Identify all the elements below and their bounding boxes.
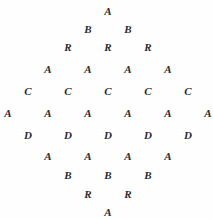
lattice-letter-a: A [102,207,114,218]
lattice-letter-r: R [122,189,134,200]
lattice-letter-d: D [102,130,114,141]
lattice-letter-c: C [182,86,194,97]
lattice-letter-a: A [102,6,114,17]
lattice-letter-a: A [82,151,94,162]
lattice-letter-a: A [42,151,54,162]
lattice-letter-a: A [82,64,94,75]
lattice-letter-b: B [62,170,74,181]
lattice-letter-r: R [62,42,74,53]
lattice-letter-b: B [102,170,114,181]
lattice-letter-a: A [2,108,14,119]
lattice-letter-a: A [42,108,54,119]
lattice-letter-b: B [142,170,154,181]
lattice-letter-r: R [82,189,94,200]
lattice-letter-a: A [42,64,54,75]
lattice-letter-a: A [162,64,174,75]
lattice-letter-a: A [202,108,213,119]
lattice-letter-c: C [142,86,154,97]
lattice-letter-r: R [142,42,154,53]
lattice-letter-b: B [122,24,134,35]
lattice-letter-d: D [22,130,34,141]
lattice-letter-a: A [122,64,134,75]
lattice-letter-c: C [22,86,34,97]
lattice-letter-a: A [122,151,134,162]
lattice-letter-a: A [122,108,134,119]
lattice-letter-c: C [102,86,114,97]
lattice-letter-d: D [62,130,74,141]
letter-lattice-diagram: ABBRRRAAAACCCCCAAAAAADDDDDAAAABBBRRA [0,0,213,219]
lattice-letter-d: D [142,130,154,141]
lattice-letter-a: A [82,108,94,119]
lattice-letter-d: D [182,130,194,141]
lattice-letter-a: A [162,151,174,162]
lattice-letter-c: C [62,86,74,97]
lattice-letter-a: A [162,108,174,119]
lattice-letter-r: R [102,42,114,53]
lattice-letter-b: B [82,24,94,35]
